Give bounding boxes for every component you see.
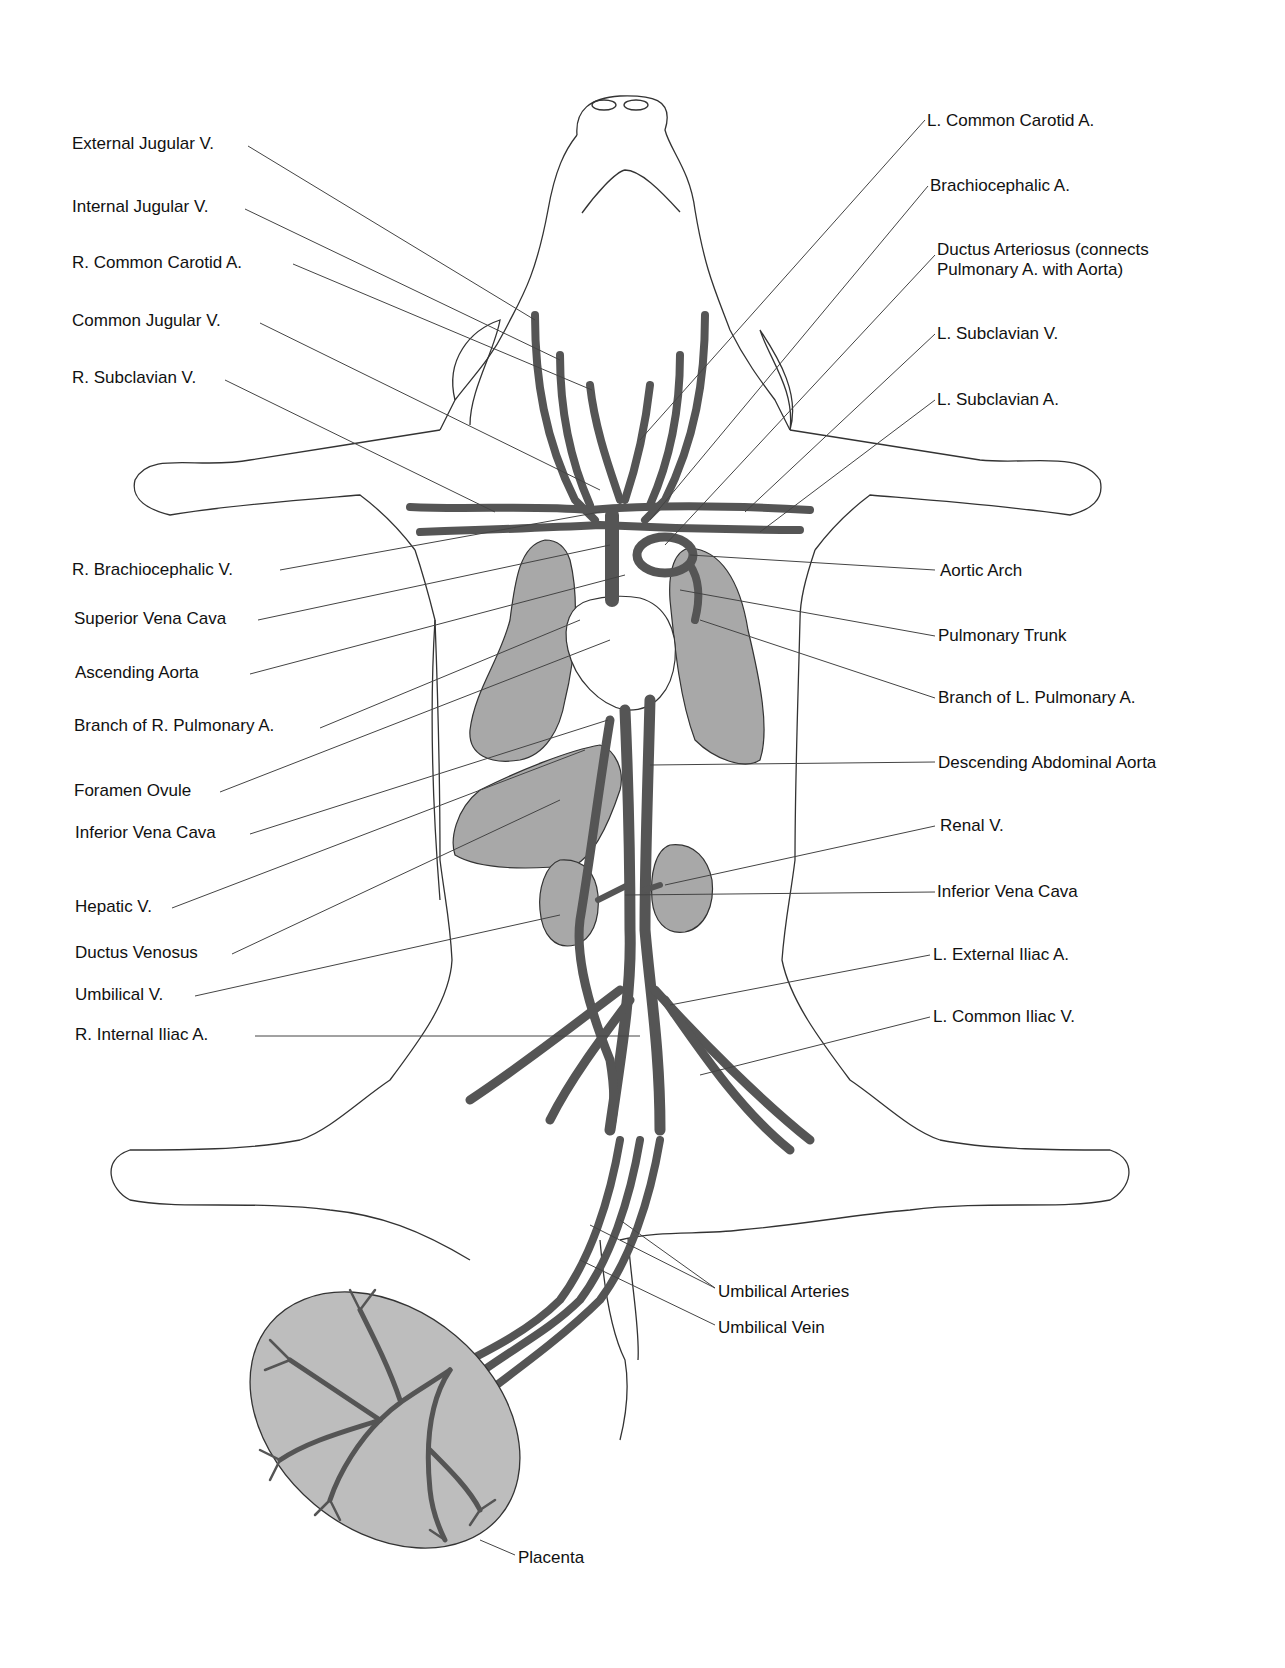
label-renal-v: Renal V. — [940, 816, 1004, 836]
label-descending-abdominal-aorta: Descending Abdominal Aorta — [938, 753, 1156, 773]
label-superior-vena-cava: Superior Vena Cava — [74, 609, 226, 629]
label-pulmonary-trunk: Pulmonary Trunk — [938, 626, 1067, 646]
label-branch-r-pulmonary-a: Branch of R. Pulmonary A. — [74, 716, 274, 736]
label-l-subclavian-v: L. Subclavian V. — [937, 324, 1058, 344]
left-lung — [670, 548, 764, 764]
label-inferior-vena-cava-right: Inferior Vena Cava — [937, 882, 1078, 902]
label-umbilical-v: Umbilical V. — [75, 985, 163, 1005]
label-aortic-arch: Aortic Arch — [940, 561, 1022, 581]
label-external-jugular-v: External Jugular V. — [72, 134, 214, 154]
label-r-common-carotid-a: R. Common Carotid A. — [72, 253, 242, 273]
label-branch-l-pulmonary-a: Branch of L. Pulmonary A. — [938, 688, 1136, 708]
label-l-common-carotid-a: L. Common Carotid A. — [927, 111, 1094, 131]
label-common-jugular-v: Common Jugular V. — [72, 311, 221, 331]
heart — [566, 596, 675, 710]
right-lung — [470, 540, 576, 761]
label-brachiocephalic-a: Brachiocephalic A. — [930, 176, 1070, 196]
label-l-common-iliac-v: L. Common Iliac V. — [933, 1007, 1075, 1027]
left-kidney — [652, 845, 713, 933]
label-inferior-vena-cava-left: Inferior Vena Cava — [75, 823, 216, 843]
label-foramen-ovule: Foramen Ovule — [74, 781, 191, 801]
label-hepatic-v: Hepatic V. — [75, 897, 152, 917]
label-internal-jugular-v: Internal Jugular V. — [72, 197, 208, 217]
label-placenta: Placenta — [518, 1548, 584, 1568]
label-umbilical-vein: Umbilical Vein — [718, 1318, 825, 1338]
label-ductus-venosus: Ductus Venosus — [75, 943, 198, 963]
label-r-subclavian-v: R. Subclavian V. — [72, 368, 196, 388]
label-r-brachiocephalic-v: R. Brachiocephalic V. — [72, 560, 233, 580]
placenta — [199, 1239, 570, 1600]
label-l-external-iliac-a: L. External Iliac A. — [933, 945, 1069, 965]
label-ascending-aorta: Ascending Aorta — [75, 663, 199, 683]
label-ductus-arteriosus: Ductus Arteriosus (connects Pulmonary A.… — [937, 240, 1207, 280]
label-r-internal-iliac-a: R. Internal Iliac A. — [75, 1025, 208, 1045]
label-l-subclavian-a: L. Subclavian A. — [937, 390, 1059, 410]
label-umbilical-arteries: Umbilical Arteries — [718, 1282, 849, 1302]
